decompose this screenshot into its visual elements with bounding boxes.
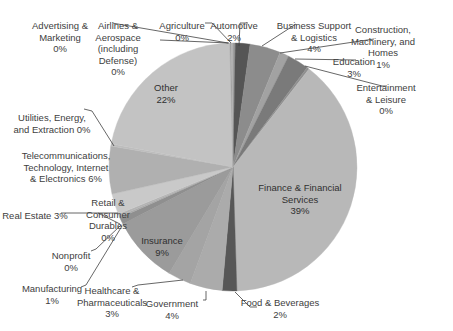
slice-label-other: Other 22% [154,82,178,105]
slice-label-telecom: Telecommunications, Technology, Internet… [22,150,111,185]
slice-label-healthcare: Healthcare & Pharmaceuticals 3% [77,285,147,320]
slice-label-education: Education 3% [333,56,375,79]
slice-label-realestate: Real Estate 3% [2,210,67,222]
slice-label-advertising: Advertising & Marketing 0% [32,20,88,55]
slice-label-airlines: Airlines & Aerospace (including Defense)… [95,20,140,78]
slice-label-finance: Finance & Financial Services 39% [258,182,341,217]
slice-label-business: Business Support & Logistics 4% [277,20,351,55]
slice-label-nonprofit: Nonprofit 0% [52,250,91,273]
slice-label-agriculture: Agriculture 0% [159,20,204,43]
slice-label-manufacturing: Manufacturing 1% [22,283,82,306]
slice-label-government: Government 4% [146,298,198,321]
slice-label-automotive: Automotive 2% [210,20,258,43]
slice-label-insurance: Insurance 9% [141,235,183,258]
slice-label-entertainment: Entertainment & Leisure 0% [356,82,415,117]
slice-label-food: Food & Beverages 2% [241,297,320,320]
leader-line [203,291,206,300]
slice-label-utilities: Utilities, Energy, and Extraction 0% [13,112,90,135]
slice-label-retail: Retail & Consumer Durables 0% [86,197,130,243]
